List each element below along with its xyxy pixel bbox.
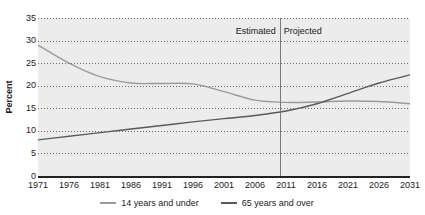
legend-item-14-years-and-under: 14 years and under (100, 198, 199, 208)
gridline (38, 153, 410, 154)
y-axis-tick-label: 15 (6, 104, 36, 113)
series-line (38, 45, 410, 104)
legend-label: 65 years and over (242, 198, 314, 208)
y-axis-tick-label: 10 (6, 126, 36, 135)
estimated-label: Estimated (236, 26, 276, 36)
y-axis-tick-label: 25 (6, 59, 36, 68)
legend-swatch-icon (100, 202, 116, 204)
gridline (38, 86, 410, 87)
gridline (38, 18, 410, 19)
y-axis-tick-label: 30 (6, 36, 36, 45)
x-axis-line (38, 176, 410, 178)
y-axis-tick-label: 20 (6, 81, 36, 90)
gridline (38, 41, 410, 42)
legend-item-65-years-and-over: 65 years and over (221, 198, 314, 208)
chart-legend: 14 years and under 65 years and over (0, 194, 414, 212)
y-axis-tick-label: 35 (6, 14, 36, 23)
legend-swatch-icon (221, 202, 237, 204)
gridline (38, 131, 410, 132)
plot-area: Estimated Projected (38, 18, 410, 176)
estimated-projected-divider (280, 18, 281, 176)
gridline (38, 108, 410, 109)
legend-label: 14 years and under (121, 198, 199, 208)
y-axis-tick-label: 5 (6, 149, 36, 158)
x-axis-tick-label: 2031 (390, 180, 425, 191)
projected-label: Projected (284, 26, 322, 36)
gridline (38, 63, 410, 64)
